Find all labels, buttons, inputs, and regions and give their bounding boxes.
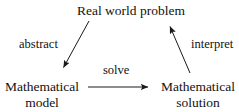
node-mathematical-solution: Mathematical solution — [157, 79, 239, 110]
node-mathematical-model-line1: Mathematical — [1, 79, 83, 95]
node-mathematical-model-line2: model — [1, 95, 83, 111]
edge-label-solve: solve — [103, 63, 129, 77]
node-real-world-problem: Real world problem — [77, 3, 185, 18]
modelling-cycle-diagram: Real world problem Mathematical model Ma… — [0, 0, 239, 112]
edge-label-interpret: interpret — [191, 37, 233, 51]
edge-arrow-interpret — [170, 27, 190, 74]
node-mathematical-solution-line2: solution — [157, 95, 239, 111]
edge-arrow-abstract — [64, 21, 90, 68]
edge-label-abstract: abstract — [19, 37, 58, 51]
node-mathematical-model: Mathematical model — [1, 79, 83, 110]
node-mathematical-solution-line1: Mathematical — [157, 79, 239, 95]
